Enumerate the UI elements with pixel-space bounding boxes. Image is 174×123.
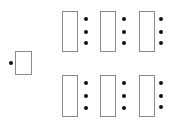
target-pin-dot (122, 17, 126, 21)
target-pin-dot (159, 17, 163, 21)
target-block-r2c3 (139, 75, 155, 117)
target-pin-dot (159, 81, 163, 85)
target-block-r2c2 (100, 75, 116, 117)
target-pin-dot (122, 30, 126, 34)
target-pin-dot (122, 94, 126, 98)
source-block (15, 51, 32, 75)
target-pin-dot (122, 81, 126, 85)
target-pin-dot (84, 106, 88, 110)
target-pin-dot (84, 17, 88, 21)
target-pin-dot (122, 41, 126, 45)
source-pin-dot (9, 61, 13, 65)
target-pin-dot (122, 106, 126, 110)
target-pin-dot (159, 41, 163, 45)
target-pin-dot (159, 30, 163, 34)
target-pin-dot (84, 94, 88, 98)
target-block-r1c1 (62, 11, 78, 52)
target-pin-dot (84, 41, 88, 45)
target-block-r2c1 (62, 75, 78, 117)
target-pin-dot (159, 105, 163, 109)
target-pin-dot (84, 81, 88, 85)
target-block-r1c3 (139, 11, 155, 52)
target-pin-dot (84, 30, 88, 34)
target-block-r1c2 (100, 11, 116, 52)
target-pin-dot (159, 94, 163, 98)
